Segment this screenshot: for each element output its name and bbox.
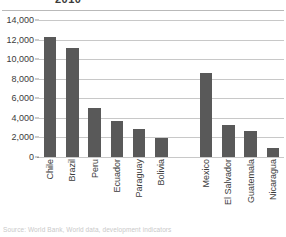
chart-title: 2010 xyxy=(55,0,81,5)
bar-column xyxy=(111,20,123,157)
x-axis-label-text: Ecuador xyxy=(112,159,121,193)
x-axis-label-text: Chile xyxy=(46,159,55,180)
x-axis-label: Brazil xyxy=(61,159,83,221)
x-axis-label-text: Guatemala xyxy=(246,159,255,203)
title-divider xyxy=(2,10,284,11)
bar xyxy=(111,121,123,157)
bar-column xyxy=(66,20,78,157)
bar xyxy=(44,37,56,157)
x-axis-label-text: Peru xyxy=(90,159,99,178)
x-axis-label-text: Nicaragua xyxy=(268,159,277,200)
bar xyxy=(155,138,167,157)
x-axis-label: Peru xyxy=(84,159,106,221)
y-axis-tick-label: 12,000 xyxy=(6,35,34,45)
x-axis-label: El Salvador xyxy=(217,159,239,221)
bar xyxy=(244,131,256,157)
bar-column xyxy=(44,20,56,157)
y-axis-tick-label: 2,000 xyxy=(11,132,34,142)
y-axis-tick-label: 10,000 xyxy=(6,54,34,64)
bar xyxy=(222,125,234,157)
bar-column xyxy=(88,20,100,157)
bar xyxy=(267,148,279,157)
y-axis-tick-label: 6,000 xyxy=(11,93,34,103)
y-axis-tick-label: 0 xyxy=(29,152,34,162)
source-note: Source: World Bank, World data, developm… xyxy=(3,226,171,233)
x-axis-label: Guatemala xyxy=(239,159,261,221)
bar xyxy=(200,73,212,157)
x-axis-label-text: Paraguay xyxy=(135,159,144,198)
bar-column xyxy=(222,20,234,157)
x-axis-label: Nicaragua xyxy=(262,159,284,221)
bar-column xyxy=(155,20,167,157)
y-axis-tick-label: 14,000 xyxy=(6,15,34,25)
bar-column xyxy=(133,20,145,157)
x-axis-label-text: Brazil xyxy=(68,159,77,182)
bar xyxy=(66,48,78,157)
x-axis-label-text: El Salvador xyxy=(224,159,233,205)
bar xyxy=(88,108,100,157)
x-axis-labels: ChileBrazilPeruEcuadorParaguayBoliviaMex… xyxy=(39,159,284,221)
bar-chart-figure: 2010 14,00012,00010,0008,0006,0004,0002,… xyxy=(0,0,286,237)
bar-series xyxy=(39,20,284,157)
x-axis-label: Paraguay xyxy=(128,159,150,221)
x-axis-label-text: Mexico xyxy=(202,159,211,188)
gridline xyxy=(39,157,284,158)
bar-column xyxy=(267,20,279,157)
bar-column xyxy=(200,20,212,157)
bar xyxy=(133,129,145,157)
plot-area: 14,00012,00010,0008,0006,0004,0002,0000 xyxy=(39,20,284,157)
bar-column xyxy=(244,20,256,157)
x-axis-label: Bolivia xyxy=(150,159,172,221)
x-axis-label: Chile xyxy=(39,159,61,221)
x-axis-label-text: Bolivia xyxy=(157,159,166,186)
y-axis-tick-label: 8,000 xyxy=(11,74,34,84)
y-axis-tick-label: 4,000 xyxy=(11,113,34,123)
x-axis-label: Mexico xyxy=(195,159,217,221)
chart-title-clip: 2010 xyxy=(0,0,286,9)
x-axis-label: Ecuador xyxy=(106,159,128,221)
